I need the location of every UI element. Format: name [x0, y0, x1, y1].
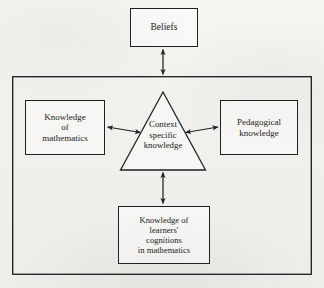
node-beliefs-label: Beliefs: [151, 22, 178, 33]
node-pedagogical-knowledge[interactable]: Pedagogical knowledge: [220, 100, 298, 155]
node-knowledge-of-mathematics-label: Knowledge of mathematics: [42, 112, 87, 144]
node-knowledge-of-mathematics[interactable]: Knowledge of mathematics: [25, 100, 105, 155]
node-knowledge-of-learners-cognitions-label: Knowledge of learners' cognitions in mat…: [138, 215, 190, 256]
node-pedagogical-knowledge-label: Pedagogical knowledge: [237, 117, 281, 138]
node-beliefs[interactable]: Beliefs: [130, 8, 198, 47]
diagram-canvas: Beliefs Knowledge of mathematics Pedagog…: [0, 0, 324, 288]
connector-context-pedagogical: [186, 127, 219, 133]
node-knowledge-of-learners-cognitions[interactable]: Knowledge of learners' cognitions in mat…: [118, 206, 210, 264]
page-caption-sliver: [8, 283, 208, 288]
connector-mathematics-context: [108, 127, 141, 133]
